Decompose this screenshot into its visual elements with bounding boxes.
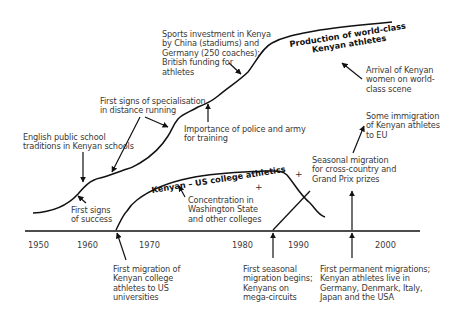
annotation-english-schools: English public school traditions in Keny… xyxy=(23,133,134,152)
arrow-women xyxy=(342,63,362,79)
annotation-specialisation: First signs of specialisation in distanc… xyxy=(100,97,206,116)
annotation-police-army: Importance of police and army for traini… xyxy=(184,125,306,144)
annotation-first-seasonal: First seasonal migration begins; Kenyans… xyxy=(243,265,313,303)
arrow-first-migration-us xyxy=(117,233,126,260)
plus-marker: + xyxy=(255,182,263,192)
arrow-eu-immigration xyxy=(353,126,364,153)
annotation-seasonal-crosscountry: Seasonal migration for cross-country and… xyxy=(312,156,396,184)
year-1950: 1950 xyxy=(28,240,49,250)
year-1970: 1970 xyxy=(139,240,160,250)
plus-marker: + xyxy=(295,169,303,179)
year-1980: 1980 xyxy=(232,240,253,250)
annotation-first-migration-us: First migration of Kenyan college athlet… xyxy=(113,265,180,303)
annotation-concentration: Concentration in Washington State and ot… xyxy=(188,196,261,224)
annotation-arrival-women: Arrival of Kenyan women on world- class … xyxy=(366,66,435,94)
year-1990: 1990 xyxy=(288,240,309,250)
arrow-first-success xyxy=(78,196,86,203)
annotation-sports-investment: Sports investment in Kenya by China (sta… xyxy=(162,30,271,77)
annotation-eu-immigration: Some immigration of Kenyan athletes to E… xyxy=(366,112,440,140)
annotation-first-success: First signs of success xyxy=(71,206,112,225)
year-2000: 2000 xyxy=(375,240,396,250)
annotation-first-permanent: First permanent migrations; Kenyan athle… xyxy=(320,265,430,303)
year-1960: 1960 xyxy=(77,240,98,250)
seasonal-migration-line xyxy=(273,191,310,230)
arrow-specialisation-1 xyxy=(145,117,168,127)
